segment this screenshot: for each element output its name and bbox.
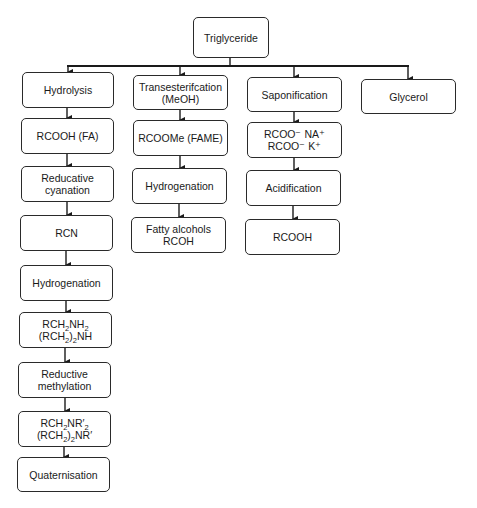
node-label: Hydrolysis [44, 84, 92, 96]
node-label: RCN [55, 227, 78, 239]
node-saponification: Saponification [247, 77, 342, 112]
node-label: (MeOH) [162, 93, 199, 105]
node-triglyceride: Triglyceride [193, 17, 269, 58]
node-hydrolysis: Hydrolysis [22, 72, 114, 108]
node-label: RCOH [163, 235, 194, 247]
node-label: RCOOH [273, 231, 312, 243]
node-tertiary-amines: RCH2NR′2 (RCH2)2NR′ [18, 411, 111, 447]
node-label: Glycerol [389, 91, 428, 103]
node-label: Reducative [41, 172, 94, 184]
node-rcoome-fame: RCOOMe (FAME) [133, 120, 228, 156]
node-label: RCOOMe (FAME) [138, 132, 223, 144]
node-label: Transesterifcation [139, 81, 222, 93]
node-transesterification: Transesterifcation (MeOH) [133, 75, 228, 110]
node-label: Hydrogenation [32, 277, 100, 289]
node-label: RCOO⁻ K⁺ [268, 140, 321, 152]
formula-secondary-amine: (RCH2)2NH [39, 330, 92, 342]
node-rcooh-fa: RCOOH (FA) [21, 118, 114, 154]
node-label: methylation [38, 380, 92, 392]
node-reductive-methylation: Reductive methylation [18, 362, 111, 398]
node-label: Acidification [265, 182, 321, 194]
node-fatty-alcohols: Fatty alcohols RCOH [131, 217, 226, 253]
node-quaternisation: Quaternisation [17, 457, 110, 492]
node-soaps: RCOO⁻ NA⁺ RCOO⁻ K⁺ [247, 122, 342, 158]
node-amines: RCH2NH2 (RCH2)2NH [19, 312, 112, 348]
node-label: Saponification [262, 89, 328, 101]
node-hydrogenation-1: Hydrogenation [20, 265, 113, 301]
node-label: Quaternisation [29, 469, 97, 481]
formula-tertiary-amine-2: (RCH2)2NR′ [37, 429, 92, 441]
formula-tertiary-amine-1: RCH2NR′2 [40, 417, 88, 429]
node-label: RCOO⁻ NA⁺ [264, 128, 325, 140]
node-acidification: Acidification [246, 170, 341, 206]
node-rcooh: RCOOH [245, 219, 340, 255]
node-hydrogenation-2: Hydrogenation [132, 168, 227, 204]
node-label: Reductive [41, 368, 88, 380]
node-label: RCOOH (FA) [37, 130, 99, 142]
node-label: Fatty alcohols [146, 223, 211, 235]
node-label: Hydrogenation [145, 180, 213, 192]
node-label: cyanation [45, 184, 90, 196]
formula-primary-amine: RCH2NH2 [42, 318, 88, 330]
node-glycerol: Glycerol [361, 79, 456, 114]
node-label: Triglyceride [204, 32, 258, 44]
node-reducative-cyanation: Reducative cyanation [21, 166, 114, 202]
node-rcn: RCN [20, 215, 113, 251]
